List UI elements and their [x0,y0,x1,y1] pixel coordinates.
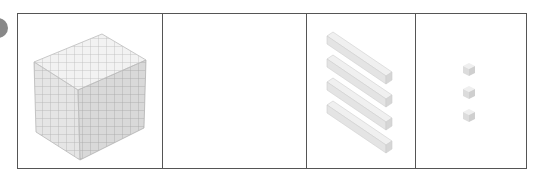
cell-hundreds [163,14,306,168]
cell-ones [416,14,526,168]
partial-marker [0,18,8,38]
cell-tens [307,14,417,168]
ten-rods-icon [307,14,417,170]
cell-thousands [18,14,163,168]
unit-cubes-icon [416,14,526,170]
thousand-cube-icon [18,14,164,170]
place-value-table [17,13,527,169]
